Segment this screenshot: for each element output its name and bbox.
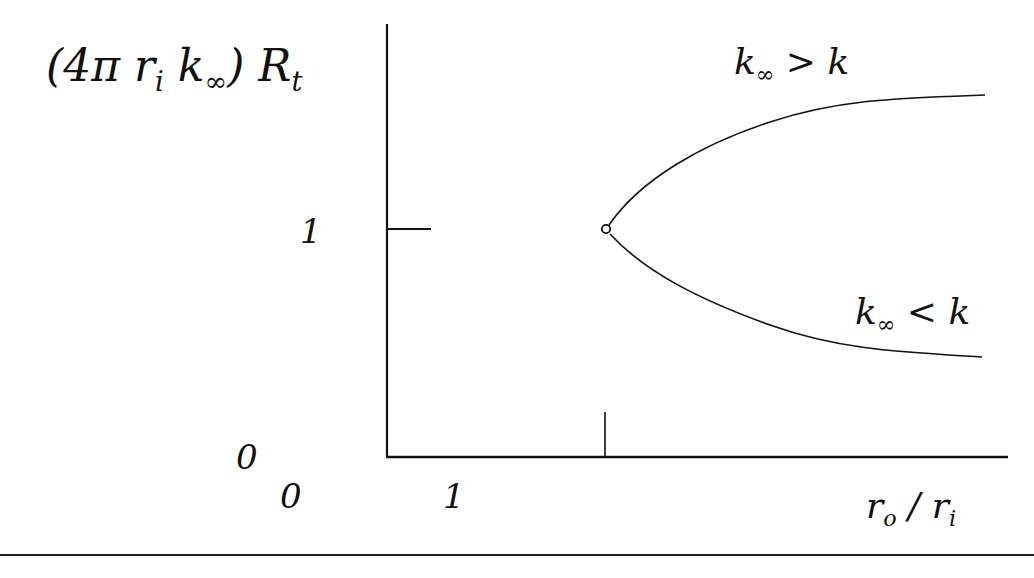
x-tick-label-0: 0 (280, 479, 302, 513)
x-label-sub-i: i (949, 505, 956, 531)
y-label-sub-t: t (292, 66, 303, 97)
bifurcation-point-marker (602, 225, 610, 233)
upper-sub-inf: ∞ (756, 61, 775, 87)
x-tick-label-1: 1 (443, 479, 465, 513)
y-label-suffix: ) R (227, 40, 291, 91)
x-label-r: r (866, 485, 883, 526)
x-label-sub-o: o (883, 505, 896, 531)
lower-relation: < k (895, 291, 970, 332)
y-tick-label-0: 0 (236, 440, 258, 474)
x-axis-label: ro / ri (866, 488, 956, 524)
y-tick-label-1: 1 (300, 214, 322, 248)
y-label-k: k (164, 40, 205, 91)
lower-sub-inf: ∞ (877, 311, 896, 337)
y-label-prefix: (4π r (46, 40, 155, 91)
x-label-slash-r: / r (897, 485, 949, 526)
y-label-sub-inf: ∞ (205, 66, 228, 97)
upper-relation: > k (774, 41, 849, 82)
curve-k-inf-greater (609, 95, 985, 225)
y-label-sub-i: i (155, 66, 164, 97)
lower-k: k (855, 291, 877, 332)
upper-k: k (734, 41, 756, 82)
annotation-k-inf-less: k∞ < k (855, 294, 970, 330)
annotation-k-inf-greater: k∞ > k (734, 44, 849, 80)
y-axis-label: (4π ri k∞) Rt (46, 44, 302, 88)
